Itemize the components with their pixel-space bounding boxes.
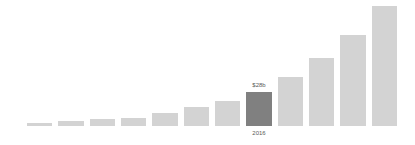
bar-value-label: $28b — [252, 82, 265, 89]
bar — [152, 113, 177, 126]
bar-group — [215, 0, 240, 145]
bar-group — [184, 0, 209, 145]
bar — [27, 123, 52, 126]
bar-group — [58, 0, 83, 145]
bar-group — [27, 0, 52, 145]
plot-area: $28b2016 — [0, 0, 415, 145]
bar — [309, 58, 334, 126]
bar-group — [121, 0, 146, 145]
bar-group — [372, 0, 397, 145]
bar — [90, 119, 115, 126]
bar-group — [340, 0, 365, 145]
bar-group — [309, 0, 334, 145]
bar — [278, 77, 303, 126]
bar-category-label: 2016 — [252, 130, 265, 137]
bar-group — [278, 0, 303, 145]
bar-chart: $28b2016 — [0, 0, 415, 145]
bar-group — [90, 0, 115, 145]
bar-group — [152, 0, 177, 145]
bar — [184, 107, 209, 126]
bar — [340, 35, 365, 126]
bar-group: $28b2016 — [246, 0, 271, 145]
bar — [215, 101, 240, 126]
bar — [58, 121, 83, 126]
bar — [121, 118, 146, 126]
bar-highlighted — [246, 92, 271, 126]
bar — [372, 6, 397, 126]
